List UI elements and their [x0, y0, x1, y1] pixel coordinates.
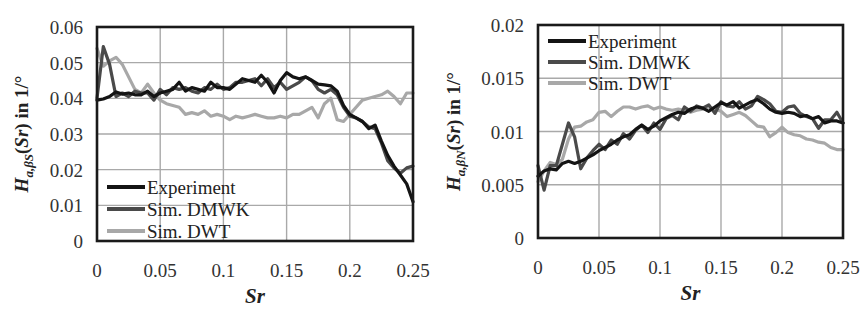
x-tick-label: 0.15	[704, 257, 737, 278]
y-tick-label: 0.02	[491, 15, 524, 36]
y-tick-label: 0	[515, 228, 525, 249]
x-tick-label: 0.2	[770, 257, 794, 278]
legend-label: Sim. DWT	[147, 221, 231, 242]
left-chart-panel: ExperimentSim. DMWKSim. DWT00.010.020.03…	[0, 0, 430, 314]
x-tick-label: 0.15	[270, 260, 303, 281]
x-tick-label: 0	[533, 257, 543, 278]
y-tick-label: 0	[74, 231, 84, 252]
x-tick-label: 0.2	[338, 260, 362, 281]
x-tick-label: 0	[92, 260, 102, 281]
legend-label: Experiment	[147, 177, 236, 198]
series-sim-dwt-line	[97, 48, 413, 121]
x-tick-label: 0.25	[826, 257, 859, 278]
y-axis-title: Ha,βN(Sr) in 1/°	[443, 72, 468, 192]
x-tick-label: 0.05	[144, 260, 177, 281]
y-tick-label: 0.04	[50, 88, 84, 109]
legend: ExperimentSim. DMWKSim. DWT	[548, 31, 691, 94]
right-chart-panel: ExperimentSim. DMWKSim. DWT00.0050.010.0…	[430, 0, 867, 314]
gridlines	[538, 25, 843, 238]
y-tick-label: 0.01	[491, 122, 524, 143]
legend-label: Sim. DMWK	[147, 199, 250, 220]
x-tick-label: 0.05	[582, 257, 615, 278]
y-tick-label: 0.06	[50, 17, 83, 38]
y-tick-label: 0.015	[481, 68, 524, 89]
series-sim-dwt-line	[538, 106, 843, 182]
y-tick-label: 0.02	[50, 160, 83, 181]
series-experiment-line	[97, 73, 413, 202]
x-tick-label: 0.25	[396, 260, 429, 281]
y-axis-title: Ha,βS(Sr) in 1/°	[11, 76, 36, 194]
x-axis-title: Sr	[681, 281, 702, 305]
right-chart: ExperimentSim. DMWKSim. DWT00.0050.010.0…	[430, 0, 867, 314]
x-tick-label: 0.1	[212, 260, 236, 281]
legend-label: Sim. DMWK	[588, 52, 691, 73]
y-tick-label: 0.005	[481, 175, 524, 196]
y-tick-label: 0.03	[50, 124, 83, 145]
x-tick-label: 0.1	[648, 257, 672, 278]
series-sim-dmwk-line	[97, 47, 413, 174]
x-axis-title: Sr	[245, 284, 266, 308]
legend-label: Experiment	[588, 31, 677, 52]
left-chart: ExperimentSim. DMWKSim. DWT00.010.020.03…	[0, 0, 430, 314]
legend-label: Sim. DWT	[588, 73, 672, 94]
y-tick-label: 0.01	[50, 195, 83, 216]
y-tick-label: 0.05	[50, 53, 83, 74]
legend: ExperimentSim. DMWKSim. DWT	[107, 177, 250, 242]
